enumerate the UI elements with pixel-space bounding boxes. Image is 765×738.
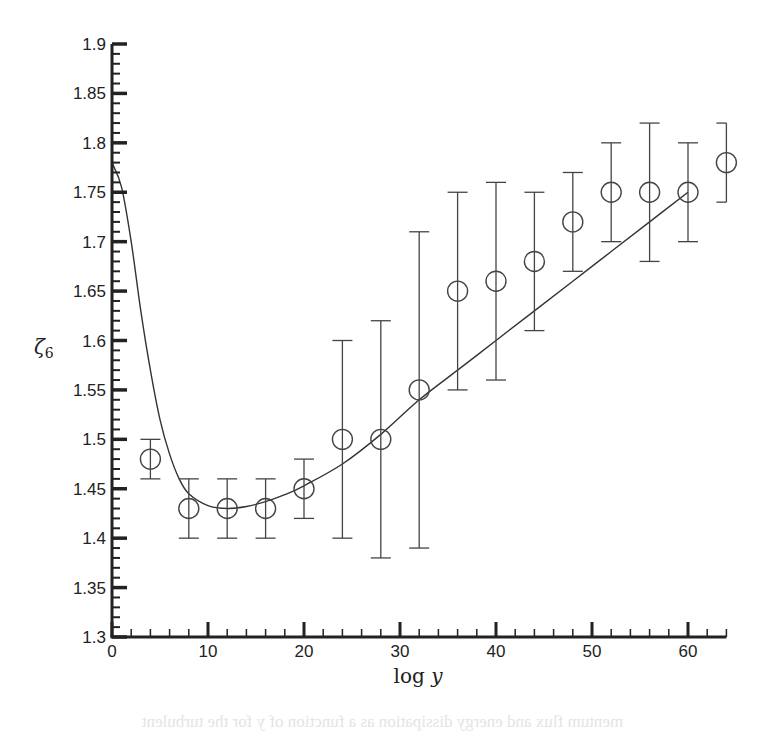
y-tick-label: 1.65 [73, 282, 106, 301]
y-tick-label: 1.6 [82, 332, 106, 351]
data-point [256, 479, 276, 538]
y-tick-label: 1.8 [82, 134, 106, 153]
data-points [140, 123, 736, 558]
y-tick-label: 1.55 [73, 381, 106, 400]
data-point [179, 479, 199, 538]
y-tick-label: 1.75 [73, 183, 106, 202]
x-tick-label: 50 [583, 642, 602, 661]
y-tick-label: 1.9 [82, 35, 106, 54]
y-tick-label: 1.5 [82, 430, 106, 449]
y-tick-label: 1.45 [73, 480, 106, 499]
x-tick-label: 30 [391, 642, 410, 661]
axes: 1.31.351.41.451.51.551.61.651.71.751.81.… [73, 35, 726, 661]
x-tick-label: 60 [679, 642, 698, 661]
model-curve-line [112, 163, 688, 509]
data-point [332, 341, 352, 539]
chart: 1.31.351.41.451.51.551.61.651.71.751.81.… [0, 0, 765, 738]
data-point [563, 172, 583, 271]
data-point [409, 232, 429, 548]
x-tick-label: 0 [107, 642, 116, 661]
data-point [601, 143, 621, 242]
model-curve [112, 163, 688, 509]
y-tick-label: 1.4 [82, 529, 106, 548]
data-point [678, 143, 698, 242]
y-axis-title: ζ6 [34, 335, 54, 361]
y-tick-label: 1.85 [73, 84, 106, 103]
data-point [524, 192, 544, 330]
x-tick-label: 40 [487, 642, 506, 661]
x-tick-label: 20 [295, 642, 314, 661]
data-point [486, 182, 506, 380]
y-tick-label: 1.7 [82, 233, 106, 252]
x-axis-title: log y [394, 664, 444, 688]
data-point [640, 123, 660, 261]
y-tick-label: 1.3 [82, 628, 106, 647]
y-tick-label: 1.35 [73, 579, 106, 598]
data-point [716, 123, 736, 202]
bleed-through-text: mentum flux and energy dissipation as a … [0, 712, 765, 732]
x-tick-label: 10 [199, 642, 218, 661]
data-point [448, 192, 468, 390]
data-point [140, 439, 160, 479]
